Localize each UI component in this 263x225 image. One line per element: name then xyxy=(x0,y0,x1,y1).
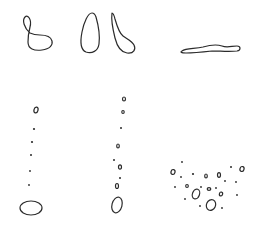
teardrop-shape xyxy=(81,13,99,53)
loop-shape xyxy=(24,16,53,50)
flat-shape xyxy=(181,45,240,53)
diagram-canvas xyxy=(0,0,263,225)
dot-column-middle xyxy=(110,97,125,214)
dot-column-left xyxy=(20,107,42,215)
dot-cluster xyxy=(170,161,244,212)
hook-shape xyxy=(112,13,135,53)
